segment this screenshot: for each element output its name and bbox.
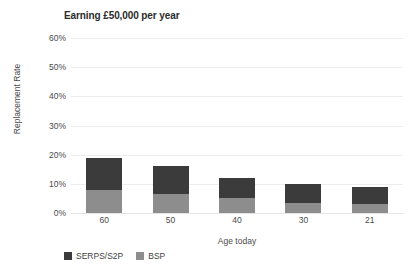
bar-stack[interactable] [153, 166, 189, 213]
y-axis-tick-label: 50% [49, 62, 66, 72]
y-axis-tick-label: 30% [49, 121, 66, 131]
bar-segment-bsp[interactable] [153, 194, 189, 213]
chart-container: Earning £50,000 per year Replacement Rat… [0, 0, 418, 278]
legend-item[interactable]: SERPS/S2P [64, 251, 123, 261]
legend-swatch-icon [64, 252, 72, 260]
bars-layer [71, 38, 403, 213]
y-axis-tick-label: 0% [54, 208, 66, 218]
bar-segment-bsp[interactable] [86, 190, 122, 213]
bar-segment-serps-s2p[interactable] [86, 158, 122, 190]
bar-stack[interactable] [86, 158, 122, 213]
bar-group[interactable] [137, 38, 203, 213]
legend-item[interactable]: BSP [136, 251, 165, 261]
bar-group[interactable] [71, 38, 137, 213]
bar-group[interactable] [337, 38, 403, 213]
x-axis-tick-label: 60 [99, 215, 108, 225]
x-axis-title: Age today [71, 236, 403, 246]
y-axis-tick-label: 10% [49, 179, 66, 189]
bar-stack[interactable] [352, 187, 388, 213]
x-axis-tick-label: 50 [166, 215, 175, 225]
legend-swatch-icon [136, 252, 144, 260]
bar-segment-serps-s2p[interactable] [153, 166, 189, 194]
bar-segment-bsp[interactable] [352, 204, 388, 213]
bar-stack[interactable] [285, 184, 321, 213]
bar-group[interactable] [204, 38, 270, 213]
legend-item-label: BSP [148, 251, 165, 261]
bar-segment-serps-s2p[interactable] [219, 178, 255, 198]
chart-legend: SERPS/S2PBSP [64, 251, 165, 261]
gridline [71, 213, 403, 214]
y-axis-tick-label: 20% [49, 150, 66, 160]
y-axis-tick-label: 40% [49, 91, 66, 101]
x-axis-tick-label: 30 [299, 215, 308, 225]
bar-group[interactable] [270, 38, 336, 213]
y-axis-title: Replacement Rate [12, 39, 22, 159]
bar-stack[interactable] [219, 178, 255, 213]
bar-segment-bsp[interactable] [285, 203, 321, 213]
x-axis-tick-label: 40 [232, 215, 241, 225]
y-axis-tick-labels: 0%10%20%30%40%50%60% [34, 38, 66, 213]
x-axis-tick-label: 21 [365, 215, 374, 225]
bar-segment-serps-s2p[interactable] [352, 187, 388, 205]
legend-item-label: SERPS/S2P [76, 251, 123, 261]
bar-segment-serps-s2p[interactable] [285, 184, 321, 203]
x-axis-tick-labels: 6050403021 [71, 215, 403, 229]
y-axis-tick-label: 60% [49, 33, 66, 43]
bar-segment-bsp[interactable] [219, 198, 255, 213]
chart-title: Earning £50,000 per year [64, 10, 179, 21]
